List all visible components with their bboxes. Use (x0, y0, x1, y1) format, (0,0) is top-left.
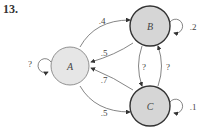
self-loop-b (170, 19, 183, 33)
svg-text:.2: .2 (190, 22, 197, 32)
svg-text:?: ? (142, 62, 146, 72)
svg-text:.5: .5 (101, 108, 108, 118)
label-a: A (66, 61, 74, 72)
svg-text:?: ? (28, 59, 32, 69)
edge-b-a (91, 43, 133, 62)
self-loop-c (170, 99, 183, 113)
svg-text:.1: .1 (190, 102, 197, 112)
svg-text:.5: .5 (101, 48, 108, 58)
svg-text:?: ? (166, 62, 170, 72)
edge-c-a (91, 68, 133, 90)
svg-text:.7: .7 (101, 75, 108, 85)
label-b: B (147, 21, 153, 32)
self-loop-a (38, 59, 51, 73)
label-c: C (147, 101, 154, 112)
svg-text:.4: .4 (99, 16, 106, 26)
markov-diagram: A B C .4 .5 .7 .5 ? ? ? .2 .1 (0, 0, 206, 131)
edge-c-b (158, 46, 162, 86)
